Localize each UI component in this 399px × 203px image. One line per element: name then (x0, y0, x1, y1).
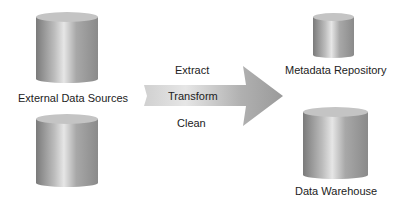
source-cylinder-2 (36, 114, 98, 187)
transform-label: Transform (168, 90, 218, 102)
clean-label: Clean (177, 117, 206, 129)
source-cylinder-1 (36, 12, 98, 83)
metadata-cylinder (313, 13, 354, 58)
warehouse-label: Data Warehouse (295, 185, 377, 197)
extract-label: Extract (175, 64, 209, 76)
warehouse-cylinder (303, 107, 368, 179)
sources-label: External Data Sources (18, 92, 128, 104)
metadata-label: Metadata Repository (285, 64, 387, 76)
